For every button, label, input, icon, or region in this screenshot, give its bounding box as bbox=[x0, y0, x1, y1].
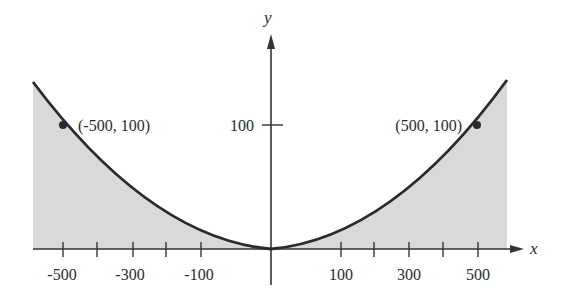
parabola-chart: y x 100 -500 -300 -100 100 300 500 (-500… bbox=[0, 0, 561, 308]
point-left bbox=[59, 121, 67, 129]
x-tick-label-500: 500 bbox=[466, 266, 490, 283]
x-axis-arrow-icon bbox=[510, 245, 524, 253]
x-tick-label-300: 300 bbox=[397, 266, 421, 283]
y-axis-label: y bbox=[262, 8, 272, 27]
point-right bbox=[473, 121, 481, 129]
x-tick-label-neg300: -300 bbox=[115, 266, 144, 283]
shaded-region-right bbox=[271, 80, 507, 249]
point-label-left: (-500, 100) bbox=[78, 117, 150, 135]
y-axis-arrow-icon bbox=[267, 34, 275, 49]
shaded-region-left bbox=[33, 82, 271, 249]
x-tick-label-100: 100 bbox=[329, 266, 353, 283]
y-tick-label-100: 100 bbox=[230, 117, 254, 134]
x-tick-label-neg100: -100 bbox=[184, 266, 213, 283]
point-label-right: (500, 100) bbox=[395, 117, 462, 135]
x-tick-label-neg500: -500 bbox=[47, 266, 76, 283]
x-axis-label: x bbox=[529, 239, 538, 258]
